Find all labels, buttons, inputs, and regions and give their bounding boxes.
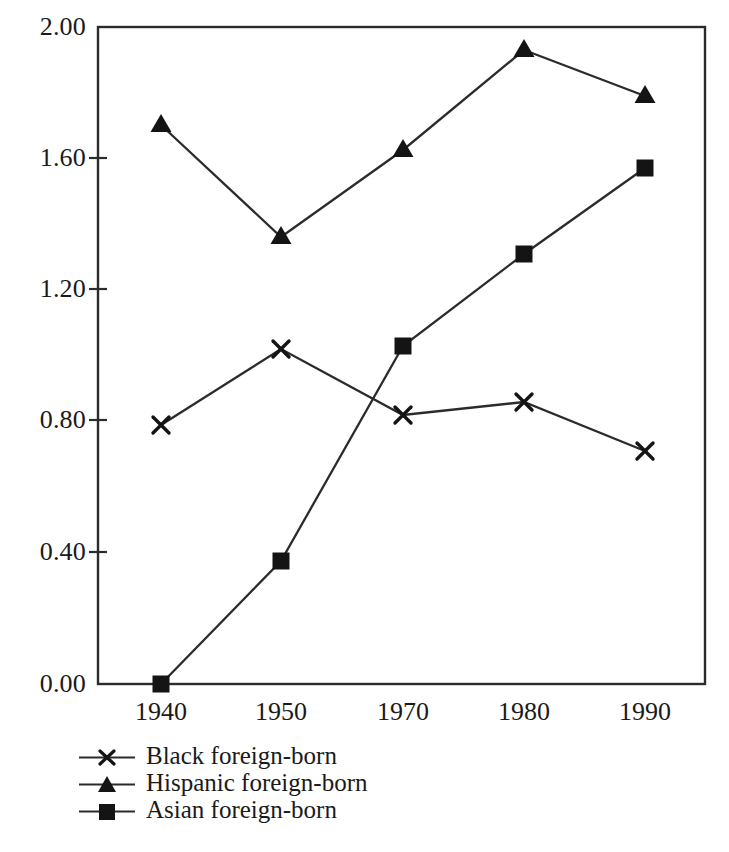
x-tick-label: 1950 [226,698,336,726]
legend-label: Hispanic foreign-born [146,769,367,796]
x-tick-label: 1990 [590,698,700,726]
legend-item-hispanic-foreign-born: Hispanic foreign-born [78,771,578,798]
legend-item-black-foreign-born: Black foreign-born [78,744,578,771]
chart-legend: Black foreign-born Hispanic foreign-born… [78,744,578,825]
x-tick-label: 1970 [348,698,458,726]
x-tick-label: 1980 [469,698,579,726]
x-axis-tick-labels: 1940 1950 1970 1980 1990 [0,0,729,852]
x-tick-label: 1940 [106,698,216,726]
x-marker-icon [78,744,136,771]
legend-label: Black foreign-born [146,742,337,769]
legend-label: Asian foreign-born [146,796,337,823]
triangle-marker-icon [78,771,136,798]
square-marker-icon [78,798,136,825]
legend-item-asian-foreign-born: Asian foreign-born [78,798,578,825]
chart-figure: 2.00 1.60 1.20 0.80 0.40 0.00 1940 1950 … [0,0,729,852]
